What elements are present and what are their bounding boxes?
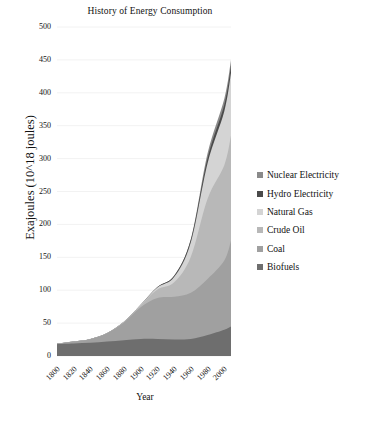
legend-item-label: Nuclear Electricity [267, 170, 339, 180]
legend-item[interactable]: Biofuels [257, 258, 339, 276]
y-tick-label: 0 [25, 352, 51, 360]
y-tick-label: 450 [25, 56, 51, 64]
y-tick-label: 50 [25, 319, 51, 327]
legend-item-label: Coal [267, 244, 285, 254]
chart-legend: Nuclear ElectricityHydro ElectricityNatu… [257, 166, 339, 276]
y-tick-label: 200 [25, 220, 51, 228]
legend-swatch-icon [257, 227, 263, 233]
y-tick-label: 250 [25, 188, 51, 196]
legend-item-label: Natural Gas [267, 207, 313, 217]
legend-item[interactable]: Hydro Electricity [257, 184, 339, 202]
legend-item-label: Hydro Electricity [267, 189, 333, 199]
y-tick-label: 400 [25, 89, 51, 97]
y-tick-label: 300 [25, 155, 51, 163]
chart-container: History of Energy Consumption Exajoules … [0, 0, 377, 421]
y-tick-label: 150 [25, 253, 51, 261]
legend-item-label: Biofuels [267, 262, 299, 272]
legend-item[interactable]: Natural Gas [257, 203, 339, 221]
y-tick-label: 350 [25, 122, 51, 130]
legend-swatch-icon [257, 172, 263, 178]
legend-swatch-icon [257, 246, 263, 252]
y-tick-label: 100 [25, 286, 51, 294]
legend-swatch-icon [257, 209, 263, 215]
legend-item[interactable]: Nuclear Electricity [257, 166, 339, 184]
y-tick-label: 500 [25, 23, 51, 31]
legend-item[interactable]: Crude Oil [257, 221, 339, 239]
legend-swatch-icon [257, 264, 263, 270]
area-series-group [57, 60, 231, 356]
legend-item-label: Crude Oil [267, 225, 305, 235]
x-axis-label: Year [95, 392, 195, 402]
legend-item[interactable]: Coal [257, 240, 339, 258]
legend-swatch-icon [257, 191, 263, 197]
